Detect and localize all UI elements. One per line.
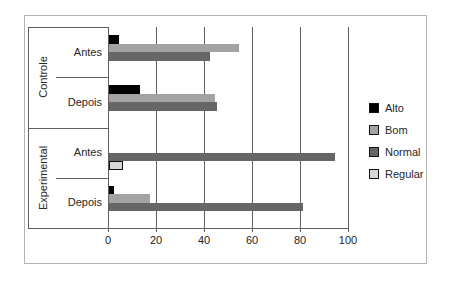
subcategory-separator-1 — [56, 77, 108, 78]
x-axis-line — [28, 228, 349, 229]
legend-swatch-normal — [369, 147, 379, 157]
x-tick-label-0: 0 — [93, 234, 123, 246]
gridline-60 — [252, 27, 253, 228]
legend-swatch-regular — [369, 169, 379, 179]
legend-item-normal: Normal — [369, 147, 424, 157]
x-tick-label-80: 80 — [285, 234, 315, 246]
category-box-top — [28, 27, 108, 28]
legend-label-bom: Bom — [385, 125, 408, 136]
bar-regular-3 — [109, 161, 123, 170]
legend-swatch-bom — [369, 125, 379, 135]
legend-swatch-alto — [369, 103, 379, 113]
x-tick-label-100: 100 — [333, 234, 363, 246]
bar-normal-3 — [109, 153, 335, 162]
legend-label-regular: Regular — [385, 169, 424, 180]
gridline-80 — [300, 27, 301, 228]
bar-normal-2 — [109, 102, 217, 111]
legend-item-alto: Alto — [369, 103, 424, 113]
x-tick-label-40: 40 — [189, 234, 219, 246]
group-separator — [28, 128, 108, 129]
x-tick-label-20: 20 — [141, 234, 171, 246]
bar-alto-1 — [109, 35, 119, 44]
legend: AltoBomNormalRegular — [369, 103, 424, 191]
bar-bom-1 — [109, 44, 239, 53]
group-label-experimental: Experimental — [37, 146, 49, 210]
legend-label-alto: Alto — [385, 103, 404, 114]
legend-label-normal: Normal — [385, 147, 420, 158]
legend-item-regular: Regular — [369, 169, 424, 179]
category-label-3: Antes — [46, 146, 102, 159]
legend-item-bom: Bom — [369, 125, 424, 135]
category-box-left — [28, 27, 29, 228]
bar-bom-4 — [109, 194, 150, 203]
chart-canvas: 020406080100AntesDepoisAntesDepoisContro… — [0, 0, 453, 282]
x-tick-label-60: 60 — [237, 234, 267, 246]
bar-bom-2 — [109, 94, 215, 103]
bar-normal-1 — [109, 52, 210, 61]
bar-normal-4 — [109, 203, 303, 212]
subcategory-separator-2 — [56, 178, 108, 179]
bar-alto-4 — [109, 186, 114, 195]
group-label-controle: Controle — [37, 56, 49, 98]
bar-alto-2 — [109, 85, 140, 94]
gridline-100 — [348, 27, 349, 228]
category-label-4: Depois — [46, 196, 102, 209]
category-label-1: Antes — [46, 46, 102, 59]
category-label-2: Depois — [46, 96, 102, 109]
